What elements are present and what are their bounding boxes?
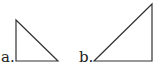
label-b: b.: [79, 50, 93, 65]
label-a: a.: [1, 50, 15, 65]
triangle-a: [16, 20, 58, 61]
triangle-b: [94, 4, 152, 61]
